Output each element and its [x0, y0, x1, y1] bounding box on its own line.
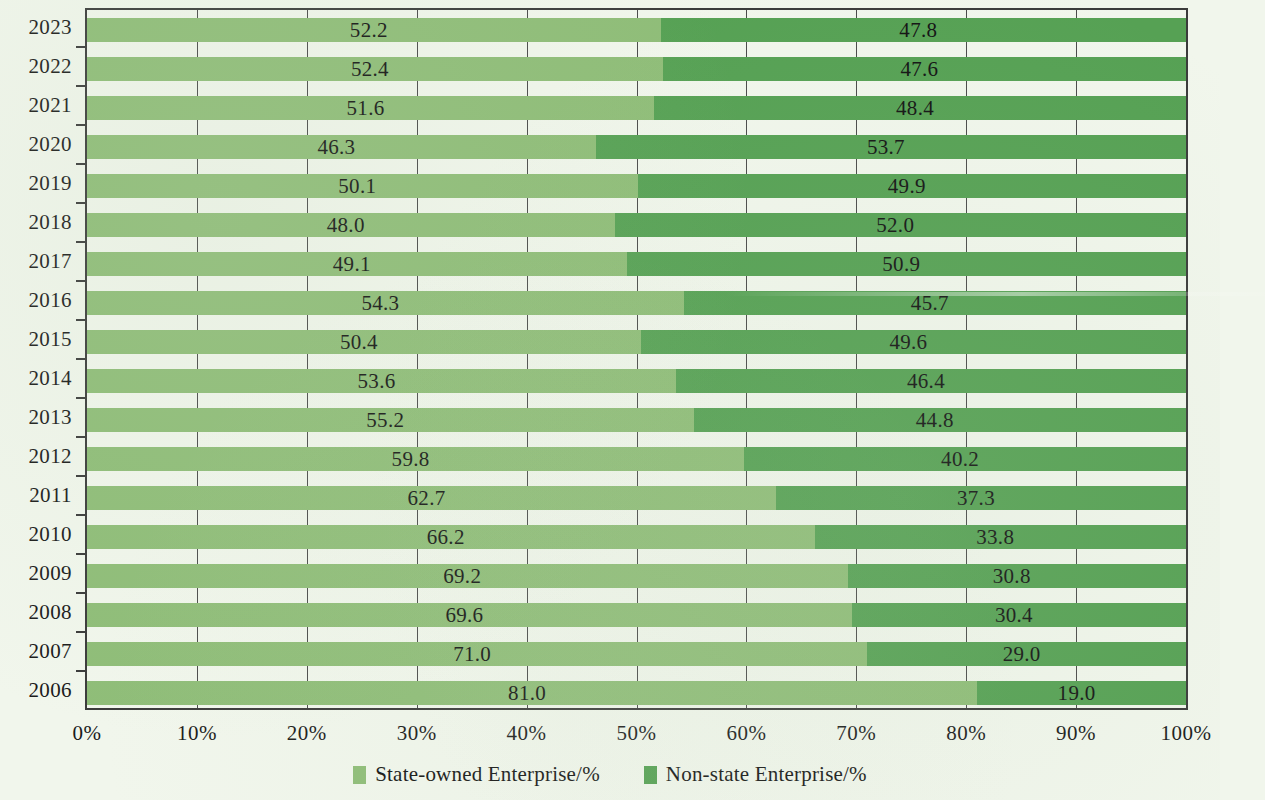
x-axis-tick-50: 50%	[582, 722, 692, 744]
x-axis-tick-80: 80%	[911, 722, 1021, 744]
bar-value-label: 49.1	[333, 253, 371, 274]
bar-value-label: 81.0	[508, 682, 546, 703]
bar-segment-state-owned: 66.2	[87, 525, 815, 549]
bar-segment-non-state: 49.9	[638, 174, 1186, 198]
bar-segment-non-state: 47.8	[661, 18, 1186, 42]
bar-value-label: 50.9	[882, 253, 920, 274]
legend-swatch-icon	[353, 766, 366, 784]
bar-segment-non-state: 50.9	[627, 252, 1186, 276]
bar-row: 52.247.8	[87, 18, 1186, 42]
bar-value-label: 53.7	[867, 136, 905, 157]
x-axis-tick-60: 60%	[691, 722, 801, 744]
bar-segment-non-state: 30.4	[852, 603, 1186, 627]
y-axis-tick	[76, 670, 86, 672]
y-axis-label-2016: 2016	[0, 290, 72, 311]
x-axis-tick-20: 20%	[252, 722, 362, 744]
bar-row: 69.230.8	[87, 564, 1186, 588]
bar-value-label: 51.6	[347, 97, 385, 118]
bar-value-label: 47.6	[900, 58, 938, 79]
bar-row: 62.737.3	[87, 486, 1186, 510]
bar-value-label: 54.3	[361, 292, 399, 313]
bar-value-label: 48.0	[327, 214, 365, 235]
bar-segment-non-state: 40.2	[744, 447, 1186, 471]
y-axis-tick	[76, 280, 86, 282]
bar-row: 81.019.0	[87, 681, 1186, 705]
bar-segment-state-owned: 51.6	[87, 96, 654, 120]
y-axis-label-2014: 2014	[0, 368, 72, 389]
y-axis-label-2013: 2013	[0, 407, 72, 428]
bar-segment-state-owned: 50.4	[87, 330, 641, 354]
bar-segment-state-owned: 71.0	[87, 642, 867, 666]
bar-value-label: 59.8	[392, 448, 430, 469]
bar-segment-non-state: 45.7	[684, 291, 1186, 315]
bar-segment-non-state: 52.0	[615, 213, 1186, 237]
bar-row: 59.840.2	[87, 447, 1186, 471]
bar-value-label: 29.0	[1003, 643, 1041, 664]
y-axis-label-2019: 2019	[0, 173, 72, 194]
bar-value-label: 45.7	[911, 292, 949, 313]
chart-legend: State-owned Enterprise/%Non-state Enterp…	[0, 764, 1220, 785]
y-axis-tick	[76, 631, 86, 633]
legend-label: Non-state Enterprise/%	[666, 764, 867, 785]
bar-segment-state-owned: 81.0	[87, 681, 977, 705]
bar-segment-state-owned: 52.2	[87, 18, 661, 42]
bar-row: 49.150.9	[87, 252, 1186, 276]
bar-segment-state-owned: 49.1	[87, 252, 627, 276]
legend-label: State-owned Enterprise/%	[375, 764, 600, 785]
legend-item-non-state[interactable]: Non-state Enterprise/%	[644, 764, 867, 785]
bar-row: 69.630.4	[87, 603, 1186, 627]
bar-segment-state-owned: 50.1	[87, 174, 638, 198]
y-axis-tick	[76, 553, 86, 555]
bar-segment-non-state: 19.0	[977, 681, 1186, 705]
bar-value-label: 19.0	[1058, 682, 1096, 703]
bar-value-label: 46.4	[907, 370, 945, 391]
bar-row: 54.345.7	[87, 291, 1186, 315]
y-axis-label-2012: 2012	[0, 446, 72, 467]
legend-item-state-owned[interactable]: State-owned Enterprise/%	[353, 764, 600, 785]
bar-value-label: 46.3	[317, 136, 355, 157]
bar-segment-state-owned: 52.4	[87, 57, 663, 81]
y-axis-label-2006: 2006	[0, 680, 72, 701]
y-axis-label-2018: 2018	[0, 212, 72, 233]
bar-row: 71.029.0	[87, 642, 1186, 666]
bar-segment-non-state: 37.3	[776, 486, 1186, 510]
bar-segment-state-owned: 59.8	[87, 447, 744, 471]
bar-value-label: 40.2	[941, 448, 979, 469]
bar-value-label: 44.8	[916, 409, 954, 430]
bar-value-label: 37.3	[957, 487, 995, 508]
bar-row: 46.353.7	[87, 135, 1186, 159]
y-axis-tick	[76, 124, 86, 126]
bar-value-label: 55.2	[366, 409, 404, 430]
y-axis-label-2022: 2022	[0, 56, 72, 77]
y-axis-tick	[76, 358, 86, 360]
y-axis-tick	[76, 46, 86, 48]
bar-segment-state-owned: 46.3	[87, 135, 596, 159]
bar-segment-state-owned: 55.2	[87, 408, 694, 432]
bar-row: 66.233.8	[87, 525, 1186, 549]
bar-row: 52.447.6	[87, 57, 1186, 81]
y-axis-label-2010: 2010	[0, 524, 72, 545]
x-axis-tick-90: 90%	[1021, 722, 1131, 744]
bar-value-label: 50.4	[340, 331, 378, 352]
bar-value-label: 53.6	[358, 370, 396, 391]
bar-row: 55.244.8	[87, 408, 1186, 432]
bar-segment-non-state: 30.8	[848, 564, 1186, 588]
y-axis-tick	[76, 163, 86, 165]
bar-segment-non-state: 48.4	[654, 96, 1186, 120]
bar-value-label: 30.4	[995, 604, 1033, 625]
y-axis-label-2007: 2007	[0, 641, 72, 662]
x-axis-tick-40: 40%	[472, 722, 582, 744]
bar-segment-state-owned: 69.6	[87, 603, 852, 627]
y-axis-label-2020: 2020	[0, 134, 72, 155]
bar-value-label: 52.0	[876, 214, 914, 235]
y-axis-tick	[76, 241, 86, 243]
y-axis-label-2023: 2023	[0, 17, 72, 38]
y-axis-tick	[76, 475, 86, 477]
bar-segment-non-state: 33.8	[815, 525, 1186, 549]
bar-segment-non-state: 47.6	[663, 57, 1186, 81]
y-axis-label-2015: 2015	[0, 329, 72, 350]
y-axis-label-2008: 2008	[0, 602, 72, 623]
bar-segment-non-state: 53.7	[596, 135, 1186, 159]
bar-row: 53.646.4	[87, 369, 1186, 393]
